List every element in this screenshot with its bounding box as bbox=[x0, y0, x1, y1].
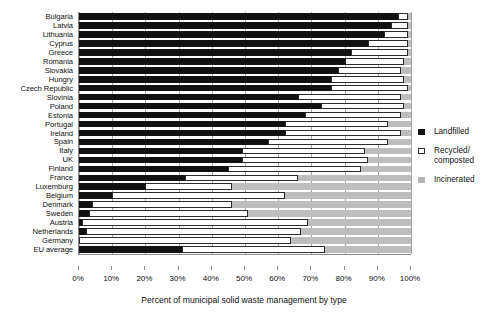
category-label: Belgium bbox=[46, 191, 73, 200]
x-tick-label: 40% bbox=[203, 274, 219, 283]
bar-segment-recycled bbox=[398, 13, 408, 20]
bar-segment-incinerated bbox=[401, 67, 411, 74]
category-label: Portugal bbox=[45, 120, 73, 129]
bar-segment-incinerated bbox=[408, 40, 411, 47]
bar-segment-incinerated bbox=[401, 130, 411, 137]
bar-segment-incinerated bbox=[232, 201, 411, 208]
x-tick-mark bbox=[78, 266, 79, 270]
legend-item: Landfilled bbox=[418, 127, 498, 137]
bar-row bbox=[79, 148, 411, 155]
bar-segment-recycled bbox=[145, 183, 231, 190]
bar-row bbox=[79, 13, 411, 20]
legend-swatch-incinerated-icon bbox=[418, 177, 425, 184]
x-tick-label: 100% bbox=[400, 274, 420, 283]
bar-segment-incinerated bbox=[388, 121, 411, 128]
bar-segment-incinerated bbox=[401, 112, 411, 119]
bar-segment-incinerated bbox=[408, 31, 411, 38]
chart-legend: LandfilledRecycled/compostedIncinerated bbox=[418, 127, 498, 194]
bar-segment-incinerated bbox=[248, 210, 411, 217]
bar-row bbox=[79, 130, 411, 137]
category-label: Netherlands bbox=[33, 227, 73, 236]
bar-row bbox=[79, 139, 411, 146]
x-axis-tick-labels: 0%10%20%30%40%50%60%70%80%90%100% bbox=[0, 274, 499, 286]
x-tick-label: 60% bbox=[269, 274, 285, 283]
bar-segment-landfilled bbox=[79, 121, 285, 128]
bar-segment-recycled bbox=[92, 201, 231, 208]
bar-row bbox=[79, 175, 411, 182]
legend-swatch-recycled-icon bbox=[418, 148, 425, 155]
x-tick-mark bbox=[310, 266, 311, 270]
bar-segment-incinerated bbox=[325, 246, 411, 253]
bar-segment-landfilled bbox=[79, 112, 305, 119]
category-label: Romania bbox=[43, 57, 73, 66]
legend-label: Incinerated bbox=[434, 175, 475, 184]
category-label: Ireland bbox=[50, 129, 73, 138]
bar-segment-landfilled bbox=[79, 13, 398, 20]
x-tick-label: 10% bbox=[103, 274, 119, 283]
gridline bbox=[411, 12, 412, 254]
bar-segment-recycled bbox=[182, 246, 325, 253]
x-tick-label: 90% bbox=[369, 274, 385, 283]
bar-segment-incinerated bbox=[408, 85, 411, 92]
x-tick-mark bbox=[277, 266, 278, 270]
bar-segment-incinerated bbox=[361, 166, 411, 173]
legend-item: Incinerated bbox=[418, 175, 498, 185]
bar-segment-landfilled bbox=[79, 228, 86, 235]
bar-segment-recycled bbox=[185, 175, 298, 182]
x-tick-label: 30% bbox=[170, 274, 186, 283]
x-tick-mark bbox=[344, 266, 345, 270]
bar-segment-incinerated bbox=[404, 58, 411, 65]
bar-segment-recycled bbox=[298, 94, 401, 101]
bar-row bbox=[79, 67, 411, 74]
bar-segment-landfilled bbox=[79, 210, 89, 217]
x-tick-mark bbox=[377, 266, 378, 270]
bar-segment-landfilled bbox=[79, 40, 368, 47]
bar-segment-landfilled bbox=[79, 31, 384, 38]
bar-segment-incinerated bbox=[408, 49, 411, 56]
bar-segment-incinerated bbox=[291, 237, 411, 244]
bar-segment-recycled bbox=[242, 148, 365, 155]
bar-segment-incinerated bbox=[408, 13, 411, 20]
bar-row bbox=[79, 166, 411, 173]
category-label: Lithuania bbox=[43, 30, 73, 39]
bar-segment-recycled bbox=[338, 67, 401, 74]
x-tick-mark bbox=[178, 266, 179, 270]
category-label: Greece bbox=[48, 48, 73, 57]
bar-segment-landfilled bbox=[79, 103, 321, 110]
x-tick-label: 20% bbox=[136, 274, 152, 283]
bar-row bbox=[79, 112, 411, 119]
bar-segment-incinerated bbox=[404, 76, 411, 83]
stacked-bar-chart: BulgariaLatviaLithuaniaCyprusGreeceRoman… bbox=[0, 0, 499, 312]
category-label: Hungry bbox=[49, 75, 73, 84]
bar-segment-incinerated bbox=[388, 139, 411, 146]
category-label: Estonia bbox=[48, 111, 73, 120]
bar-segment-incinerated bbox=[308, 219, 411, 226]
bar-segment-incinerated bbox=[368, 157, 411, 164]
bar-segment-recycled bbox=[305, 112, 401, 119]
bar-row bbox=[79, 237, 411, 244]
bar-segment-landfilled bbox=[79, 58, 345, 65]
bar-row bbox=[79, 219, 411, 226]
category-label: UK bbox=[63, 155, 73, 164]
legend-label: Landfilled bbox=[434, 127, 469, 136]
bar-segment-incinerated bbox=[401, 94, 411, 101]
category-label: Italy bbox=[59, 146, 73, 155]
category-label: Cyprus bbox=[49, 39, 73, 48]
bar-row bbox=[79, 85, 411, 92]
bar-segment-recycled bbox=[86, 228, 302, 235]
bar-segment-landfilled bbox=[79, 201, 92, 208]
x-tick-mark bbox=[144, 266, 145, 270]
bar-segment-recycled bbox=[331, 76, 404, 83]
bar-segment-recycled bbox=[351, 49, 407, 56]
bar-row bbox=[79, 192, 411, 199]
bar-segment-incinerated bbox=[232, 183, 411, 190]
x-tick-label: 70% bbox=[302, 274, 318, 283]
category-label: Spain bbox=[54, 137, 73, 146]
category-label: Austria bbox=[50, 218, 73, 227]
category-label: France bbox=[50, 173, 73, 182]
category-label: EU average bbox=[33, 245, 73, 254]
category-label: Germany bbox=[42, 236, 73, 245]
plot-area bbox=[78, 12, 411, 254]
bar-segment-landfilled bbox=[79, 148, 242, 155]
legend-label: Recycled/ bbox=[434, 146, 470, 155]
